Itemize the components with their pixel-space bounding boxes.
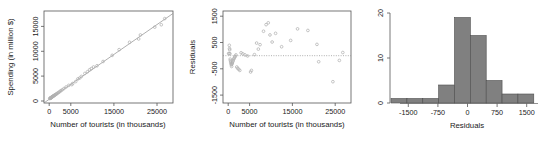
data-point [137,38,140,41]
x-tick-label: 0 [226,107,230,116]
data-point [255,42,258,45]
y-tick-label: 0 [376,101,385,105]
panel-residual-scatter: -1500 -500 500 1500 0 5000 15000 25000 R… [182,0,360,145]
data-point [259,43,262,46]
histogram-bars-layer [391,18,534,104]
spending-scatter-svg: 0 5000 10000 15000 0 5000 15000 25000 Sp… [0,0,182,145]
data-points-layer [227,21,344,83]
data-point [317,60,320,63]
residual-histogram-svg: 0 10 20 -1500 -750 0 750 1500 Residuals [360,0,546,145]
x-axis-label: Residuals [450,121,484,130]
histogram-bar [439,85,455,103]
y-axis-ticks [41,26,44,101]
residual-scatter-svg: -1500 -500 500 1500 0 5000 15000 25000 R… [182,0,360,145]
y-tick-label: -1500 [210,86,219,104]
x-tick-label: 0 [466,108,470,117]
data-point [274,32,277,35]
data-point [296,28,299,31]
x-tick-label: -750 [431,108,445,117]
histogram-bar [470,36,486,104]
data-point [341,51,344,54]
y-axis-ticklabels: -1500 -500 500 1500 [210,8,219,104]
x-axis-label: Number of tourists (in thousands) [50,120,166,129]
data-point [257,48,260,51]
x-tick-label: 1500 [519,108,535,117]
data-point [269,34,272,37]
x-tick-label: 25000 [147,107,167,116]
y-tick-label: 10000 [31,41,40,61]
histogram-bar [518,94,534,103]
x-tick-label: 5000 [242,107,258,116]
histogram-bar [423,99,439,104]
x-axis-ticklabels: 0 5000 15000 25000 [47,107,167,116]
data-point [262,30,265,33]
data-point [316,43,319,46]
x-tick-label: 25000 [325,107,345,116]
x-axis-label: Number of tourists (in thousands) [229,120,345,129]
x-axis-ticks [49,103,157,106]
y-tick-label: 500 [210,37,219,49]
y-axis-ticklabels: 0 5000 10000 15000 [31,16,40,103]
histogram-bar [486,81,502,104]
y-tick-label: 15000 [31,16,40,36]
data-point [160,23,163,26]
x-axis-ticklabels: -1500 -750 0 750 1500 [399,108,535,117]
x-tick-label: 15000 [282,107,302,116]
histogram-bar [391,99,407,104]
y-axis-label: Residuals [188,40,197,74]
y-axis-ticklabels: 0 10 20 [376,9,385,105]
x-tick-label: -1500 [399,108,417,117]
x-tick-label: 5000 [63,107,79,116]
data-point [289,39,292,42]
x-axis-ticklabels: 0 5000 15000 25000 [226,107,345,116]
x-tick-label: 15000 [104,107,124,116]
y-axis-ticks [387,13,390,103]
panel-residual-histogram: 0 10 20 -1500 -750 0 750 1500 Residuals [360,0,546,145]
y-tick-label: -500 [210,62,219,76]
panel-spending-scatter: 0 5000 10000 15000 0 5000 15000 25000 Sp… [0,0,182,145]
data-point [332,80,335,83]
histogram-bar [502,94,518,103]
plot-frame [223,11,351,103]
x-tick-label: 750 [491,108,503,117]
y-axis-label: Spending (in million $) [6,18,15,96]
x-axis-ticks [228,103,335,106]
data-point [271,41,274,44]
x-axis-ticks [408,104,526,108]
data-point [280,45,283,48]
y-tick-label: 1500 [210,8,219,24]
data-point [267,21,270,24]
data-point [307,29,310,32]
histogram-bar [454,18,470,104]
data-point [338,59,341,62]
x-tick-label: 0 [47,107,51,116]
y-tick-label: 20 [376,9,385,17]
histogram-bar [407,99,423,104]
data-point [92,66,95,69]
y-axis-ticks [220,16,223,95]
data-point [228,44,231,47]
y-tick-label: 10 [376,54,385,62]
y-tick-label: 0 [31,99,40,103]
figure-root: 0 5000 10000 15000 0 5000 15000 25000 Sp… [0,0,546,145]
y-tick-label: 5000 [31,68,40,84]
